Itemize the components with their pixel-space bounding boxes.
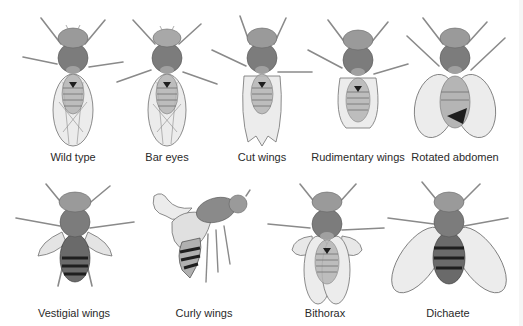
- label-rotated-abdomen: Rotated abdomen: [411, 151, 498, 164]
- fly-vestigial-wings-illustration: [16, 182, 134, 287]
- fly-rotated-abdomen: [405, 14, 505, 134]
- label-cut-wings: Cut wings: [238, 151, 286, 164]
- fly-vestigial-wings: [16, 182, 134, 287]
- label-bar-eyes: Bar eyes: [145, 151, 188, 164]
- fly-rudimentary-wings-illustration: [308, 16, 408, 128]
- fly-bithorax-illustration: [268, 176, 384, 304]
- fly-wild-type: [23, 12, 123, 147]
- fly-dichaete-illustration: [388, 178, 508, 298]
- label-curly-wings: Curly wings: [176, 307, 233, 320]
- right-edge-border: [519, 0, 523, 326]
- fly-bar-eyes: [117, 14, 217, 147]
- fly-bar-eyes-illustration: [117, 14, 217, 147]
- label-rudimentary-wings: Rudimentary wings: [311, 151, 405, 164]
- fly-curly-wings: [146, 186, 251, 286]
- fly-rudimentary-wings: [308, 16, 408, 128]
- fly-rotated-abdomen-illustration: [405, 14, 505, 134]
- fly-cut-wings-illustration: [212, 14, 312, 147]
- label-bithorax: Bithorax: [305, 307, 345, 320]
- label-wild-type: Wild type: [50, 151, 95, 164]
- fly-wild-type-illustration: [23, 12, 123, 147]
- label-vestigial-wings: Vestigial wings: [38, 307, 110, 320]
- fly-curly-wings-illustration: [146, 186, 251, 286]
- fly-cut-wings: [212, 14, 312, 147]
- fly-bithorax: [268, 176, 384, 304]
- fly-dichaete: [388, 178, 508, 298]
- label-dichaete: Dichaete: [426, 307, 469, 320]
